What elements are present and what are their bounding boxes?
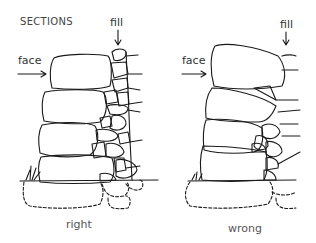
face-label-right: face — [18, 54, 41, 67]
caption-wrong: wrong — [228, 222, 262, 235]
face-arrow — [182, 71, 206, 77]
face-label-wrong: face — [182, 54, 205, 67]
fill-stone — [118, 132, 130, 144]
face-stone — [206, 88, 276, 122]
fill-arrow — [283, 32, 289, 45]
fill-stone — [106, 143, 124, 157]
foundation-fill-dashed — [102, 180, 143, 209]
caption-right: right — [66, 218, 92, 231]
face-arrow — [18, 71, 46, 77]
face-stone — [203, 119, 262, 153]
fill-stone — [111, 62, 128, 78]
fill-stone — [116, 159, 137, 178]
face-stone — [39, 122, 98, 156]
foundation-stone-dashed — [23, 182, 103, 208]
grass-tuft — [26, 166, 40, 180]
fill-stone — [262, 124, 280, 139]
fill-stone — [110, 115, 126, 130]
figure-title: SECTIONS — [20, 16, 73, 27]
wrong-wall-section — [186, 44, 301, 208]
face-stone — [211, 44, 285, 89]
fill-stone — [96, 129, 118, 141]
fill-arrow — [115, 30, 121, 45]
face-stone — [39, 155, 114, 184]
fill-label-wrong: fill — [280, 18, 293, 31]
face-stone — [42, 90, 106, 124]
fill-stone — [117, 92, 129, 106]
fill-stone — [112, 49, 126, 61]
fill-stone — [107, 105, 128, 115]
wall-sections-diagram — [0, 0, 316, 243]
foundation-fill-dashed — [272, 192, 296, 209]
face-stone — [50, 54, 111, 89]
fill-label-right: fill — [110, 16, 123, 29]
ground-line — [20, 180, 158, 181]
right-wall-section — [20, 49, 158, 209]
fill-tie-line — [276, 55, 300, 164]
foundation-stone-dashed — [186, 182, 273, 208]
